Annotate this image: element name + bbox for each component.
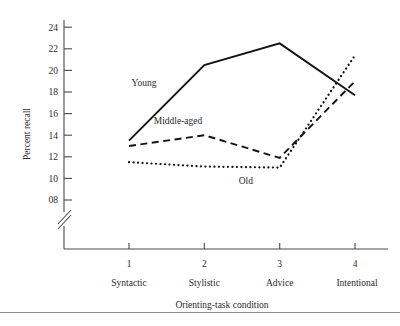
y-tick-label-12: 12 xyxy=(49,152,59,162)
y-tick-label-14: 14 xyxy=(49,131,59,141)
y-axis-title: Percent recall xyxy=(22,108,32,160)
x-tick-label-2: 2 xyxy=(202,259,207,269)
y-tick-label-10: 10 xyxy=(49,174,59,184)
x-category-label-stylistic: Stylistic xyxy=(189,278,220,288)
y-tick-label-24: 24 xyxy=(49,23,59,33)
y-tick-group xyxy=(64,27,72,200)
x-category-label-intentional: Intentional xyxy=(336,278,378,288)
series-label-old: Old xyxy=(239,176,254,186)
x-tick-label-1: 1 xyxy=(127,259,132,269)
x-category-label-advice: Advice xyxy=(266,278,293,288)
footer-divider xyxy=(0,312,400,313)
figure-container: 08 10 12 14 16 18 20 22 24 Percent recal… xyxy=(0,0,400,326)
x-tick-label-3: 3 xyxy=(277,259,282,269)
x-category-label-syntactic: Syntactic xyxy=(111,278,146,288)
y-tick-label-20: 20 xyxy=(49,66,59,76)
y-tick-label-16: 16 xyxy=(49,109,59,119)
y-tick-label-22: 22 xyxy=(49,44,59,54)
series-label-middle-aged: Middle-aged xyxy=(154,116,203,126)
series-label-young: Young xyxy=(132,78,157,88)
x-tick-group xyxy=(129,243,355,249)
x-axis-title: Orienting-task condition xyxy=(175,300,268,310)
line-chart: 08 10 12 14 16 18 20 22 24 Percent recal… xyxy=(0,0,400,326)
y-tick-label-18: 18 xyxy=(49,87,59,97)
y-tick-label-08: 08 xyxy=(49,195,59,205)
x-tick-label-4: 4 xyxy=(353,259,358,269)
